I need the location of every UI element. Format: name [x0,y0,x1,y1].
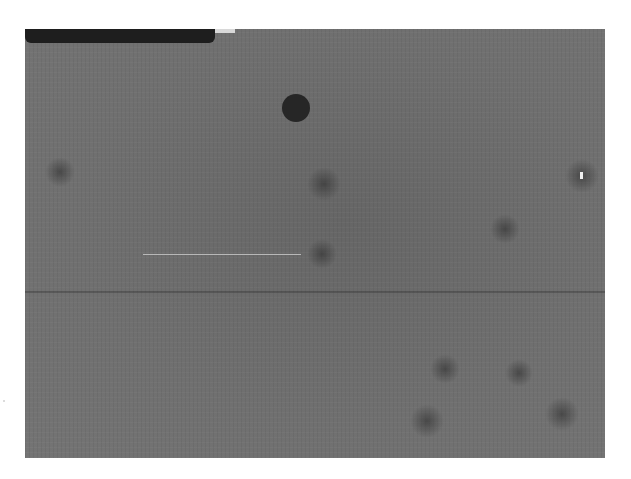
dark-blob [490,214,520,244]
large-dark-spot [282,94,310,122]
dark-blob [410,404,444,438]
bright-pixel [3,400,5,402]
hot-pixel [580,172,583,179]
dark-blob [45,157,75,187]
bright-streak [143,254,301,255]
dark-blob [307,167,341,201]
dark-bar [25,29,215,43]
dark-row-line [25,291,605,293]
dark-blob [545,397,579,431]
image-frame [25,29,605,458]
dark-blob [430,354,460,384]
dark-blob [505,359,533,387]
dark-blob [307,239,337,269]
bar-edge-highlight [215,29,235,33]
